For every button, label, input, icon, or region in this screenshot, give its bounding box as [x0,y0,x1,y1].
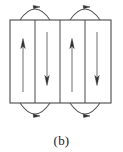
top-arc-left-arrowhead [33,5,40,8]
figure-caption: (b) [0,128,123,152]
domain-diagram [0,0,123,128]
figure-container: (b) [0,0,123,152]
top-arcs-group [20,5,100,20]
top-arc-left [20,9,50,20]
bottom-arc-left-arrowhead [33,114,40,117]
bottom-arcs-group [20,103,100,117]
bottom-arc-right [70,103,100,114]
bottom-arc-right-arrowhead [83,114,90,117]
top-arc-right [70,9,100,20]
top-arc-right-arrowhead [83,5,90,8]
bottom-arc-left [20,103,50,114]
